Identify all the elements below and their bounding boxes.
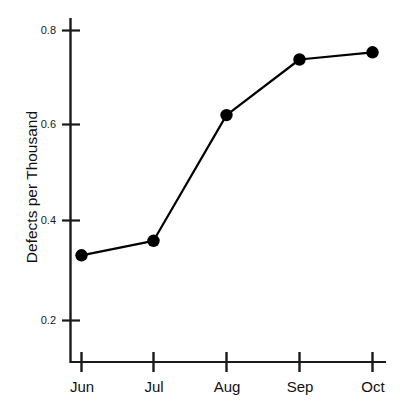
y-tick-label-0.8: 0.8 <box>22 25 56 36</box>
data-point-jul <box>147 235 159 247</box>
data-point-oct <box>366 46 378 58</box>
y-axis-title: Defects per Thousand <box>23 87 41 287</box>
data-point-aug <box>220 109 232 121</box>
x-tick-label-jun: Jun <box>52 379 112 395</box>
x-tick-label-oct: Oct <box>343 379 403 395</box>
x-tick-label-jul: Jul <box>124 379 184 395</box>
x-tick-label-aug: Aug <box>197 379 257 395</box>
data-series-line <box>82 52 373 255</box>
data-point-sep <box>293 53 305 65</box>
data-point-markers <box>75 46 378 261</box>
x-tick-label-sep: Sep <box>270 379 330 395</box>
line-chart: 0.8 0.6 0.4 0.2 Jun Jul Aug Sep Oct Defe… <box>0 0 410 410</box>
y-tick-label-0.2: 0.2 <box>22 315 56 326</box>
plot-area <box>0 0 410 410</box>
data-point-jun <box>75 249 87 261</box>
